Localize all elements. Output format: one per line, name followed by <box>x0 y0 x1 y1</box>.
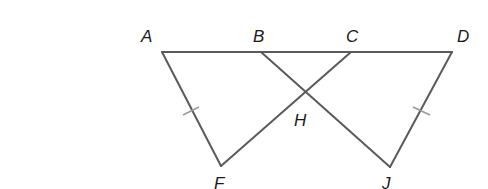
geometry-diagram: A B C D H F J <box>0 0 488 189</box>
label-d: D <box>457 27 469 46</box>
segment-af <box>162 52 221 166</box>
label-h: H <box>294 111 307 130</box>
segment-dj <box>390 52 452 167</box>
segment-fc <box>221 52 351 166</box>
label-f: F <box>214 174 226 189</box>
label-j: J <box>381 174 391 189</box>
label-c: C <box>346 27 359 46</box>
label-b: B <box>253 27 264 46</box>
label-a: A <box>140 27 152 46</box>
segment-bj <box>261 52 390 167</box>
